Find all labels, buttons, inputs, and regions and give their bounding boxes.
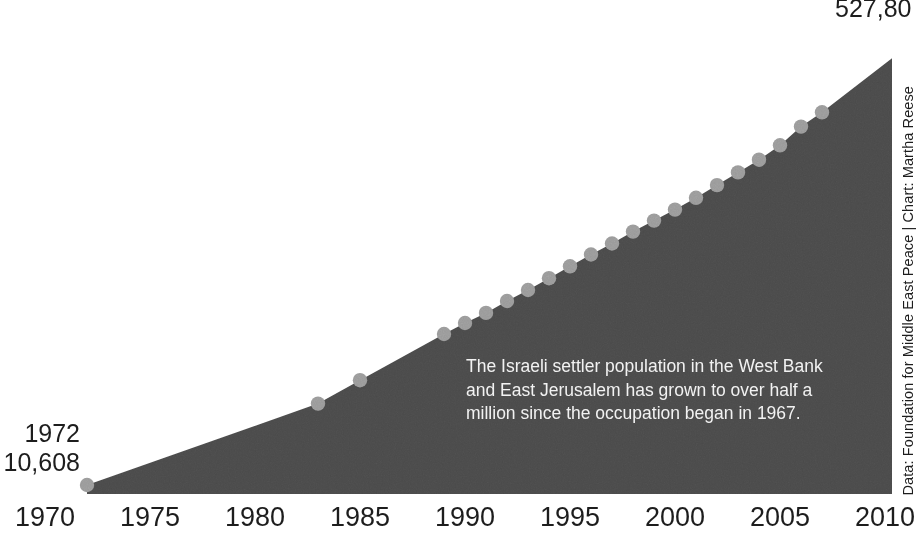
x-tick-label: 1995 [540, 500, 600, 534]
x-tick-label: 1990 [435, 500, 495, 534]
data-point-marker [689, 191, 703, 205]
x-tick-label: 2010 [855, 500, 915, 534]
x-axis: 197019751980198519901995200020052010 [0, 500, 922, 538]
data-point-marker [479, 306, 493, 320]
data-point-marker [731, 165, 745, 179]
data-point-marker [542, 271, 556, 285]
data-point-marker [458, 316, 472, 330]
data-point-marker [773, 138, 787, 152]
start-callout-year: 1972 [4, 419, 80, 448]
data-point-marker [794, 119, 808, 133]
data-point-marker [710, 178, 724, 192]
data-point-marker [521, 283, 535, 297]
data-point-marker [584, 247, 598, 261]
area-polygon [87, 47, 892, 494]
data-point-marker [500, 294, 514, 308]
annotation-line: million since the occupation began in 19… [466, 402, 866, 426]
credit-text: Data: Foundation for Middle East Peace |… [900, 82, 916, 496]
data-point-marker [311, 396, 325, 410]
data-point-marker [605, 236, 619, 250]
x-tick-label: 1975 [120, 500, 180, 534]
annotation-text: The Israeli settler population in the We… [466, 355, 866, 426]
data-point-marker [752, 153, 766, 167]
data-point-marker [668, 202, 682, 216]
annotation-line: The Israeli settler population in the We… [466, 355, 866, 379]
chart-container: 1972 10,608 527,80 The Israeli settler p… [0, 0, 922, 538]
credit-block: Data: Foundation for Middle East Peace |… [893, 0, 922, 496]
x-tick-label: 1970 [15, 500, 75, 534]
data-point-marker [563, 259, 577, 273]
x-tick-label: 1985 [330, 500, 390, 534]
data-point-marker [647, 213, 661, 227]
data-point-marker [815, 105, 829, 119]
data-point-marker [626, 224, 640, 238]
annotation-line: and East Jerusalem has grown to over hal… [466, 379, 866, 403]
plot-area: 1972 10,608 527,80 The Israeli settler p… [0, 0, 892, 496]
x-tick-label: 2005 [750, 500, 810, 534]
area-fill [87, 47, 892, 494]
start-point-callout: 1972 10,608 [4, 419, 80, 477]
x-tick-label: 2000 [645, 500, 705, 534]
data-point-marker [80, 478, 94, 492]
start-callout-value: 10,608 [4, 448, 80, 477]
data-point-marker [353, 373, 367, 387]
x-tick-label: 1980 [225, 500, 285, 534]
data-point-marker [437, 327, 451, 341]
